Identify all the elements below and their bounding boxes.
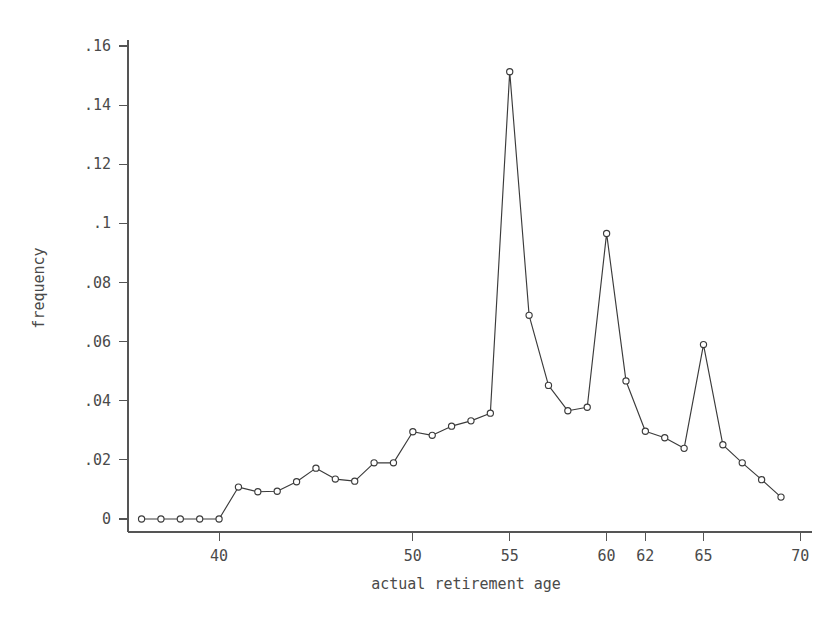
- y-axis-title: frequency: [30, 247, 48, 328]
- data-point-marker: [313, 465, 319, 471]
- data-point-marker: [778, 494, 784, 500]
- x-tick-label: 60: [598, 547, 616, 565]
- data-point-marker: [507, 69, 513, 75]
- data-point-marker: [468, 418, 474, 424]
- data-point-marker: [293, 479, 299, 485]
- data-point-marker: [584, 404, 590, 410]
- data-point-marker: [526, 312, 532, 318]
- data-point-marker: [352, 478, 358, 484]
- x-tick-label: 55: [501, 547, 519, 565]
- data-point-marker: [177, 516, 183, 522]
- y-tick-label: .16: [84, 37, 111, 55]
- data-point-marker: [274, 488, 280, 494]
- data-point-marker: [604, 230, 610, 236]
- y-tick-label: .02: [84, 451, 111, 469]
- data-point-marker: [158, 516, 164, 522]
- x-axis-title: actual retirement age: [371, 575, 561, 593]
- data-point-marker: [138, 516, 144, 522]
- x-tick-label: 65: [694, 547, 712, 565]
- y-tick-labels: 0.02.04.06.08.1.12.14.16: [84, 37, 111, 528]
- y-tick-label: 0: [102, 510, 111, 528]
- data-point-marker: [565, 408, 571, 414]
- y-tick-label: .06: [84, 333, 111, 351]
- x-tick-label: 70: [791, 547, 809, 565]
- data-point-marker: [681, 445, 687, 451]
- data-point-marker: [759, 477, 765, 483]
- data-point-marker: [448, 423, 454, 429]
- data-point-marker: [255, 489, 261, 495]
- x-tick-label: 50: [404, 547, 422, 565]
- data-point-marker: [235, 484, 241, 490]
- data-point-marker: [720, 442, 726, 448]
- frequency-line-chart: 0.02.04.06.08.1.12.14.16 40505560626570 …: [0, 0, 837, 618]
- data-point-marker: [487, 410, 493, 416]
- data-point-marker: [390, 460, 396, 466]
- data-point-marker: [545, 382, 551, 388]
- data-point-marker: [739, 460, 745, 466]
- data-point-marker: [410, 429, 416, 435]
- chart-background: [0, 0, 837, 618]
- data-point-marker: [371, 460, 377, 466]
- y-tick-label: .12: [84, 155, 111, 173]
- x-tick-label: 62: [636, 547, 654, 565]
- x-tick-label: 40: [210, 547, 228, 565]
- y-tick-label: .14: [84, 96, 111, 114]
- data-point-marker: [662, 435, 668, 441]
- data-point-marker: [429, 432, 435, 438]
- data-point-marker: [332, 476, 338, 482]
- data-point-marker: [623, 378, 629, 384]
- data-point-marker: [642, 428, 648, 434]
- y-tick-label: .04: [84, 392, 111, 410]
- data-point-marker: [216, 516, 222, 522]
- data-point-marker: [197, 516, 203, 522]
- y-tick-label: .1: [93, 214, 111, 232]
- data-point-marker: [700, 341, 706, 347]
- y-tick-label: .08: [84, 274, 111, 292]
